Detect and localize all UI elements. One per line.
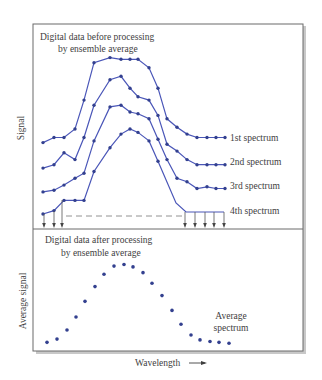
average-data-point (198, 338, 202, 342)
data-point (62, 151, 65, 154)
data-point (41, 141, 44, 144)
spectrum-label-2: 2nd spectrum (230, 157, 282, 167)
top-title-line2: by ensemble average (58, 44, 138, 54)
data-point (119, 104, 122, 107)
data-point (205, 163, 208, 166)
data-point (52, 136, 55, 139)
data-point (62, 136, 65, 139)
data-point (92, 170, 95, 173)
average-data-point (65, 328, 69, 332)
data-point (185, 180, 188, 183)
x-axis-label: Wavelength (135, 358, 180, 368)
data-point (119, 58, 122, 61)
data-point (223, 136, 226, 139)
data-point (205, 136, 208, 139)
data-point (156, 114, 159, 117)
top-title-line1: Digital data before processing (40, 32, 154, 42)
data-point (41, 190, 44, 193)
arrow-right-icon (189, 361, 207, 365)
data-point (82, 98, 85, 101)
data-point (128, 127, 131, 130)
average-spectrum-label-line2: spectrum (214, 323, 249, 333)
data-point (119, 75, 122, 78)
data-point (185, 132, 188, 135)
data-point (128, 58, 131, 61)
average-data-point (83, 300, 87, 304)
data-point (82, 172, 85, 175)
data-point (128, 110, 131, 113)
data-point (108, 146, 111, 149)
data-point (52, 163, 55, 166)
bottom-title-line2: by ensemble average (61, 248, 141, 258)
ensemble-average-diagram: Digital data before processing by ensemb… (0, 0, 322, 380)
average-data-point (170, 309, 174, 313)
data-point (73, 177, 76, 180)
data-point (147, 98, 150, 101)
average-spectrum-label-line1: Average (215, 311, 246, 321)
average-data-point (122, 263, 126, 267)
data-point (214, 136, 217, 139)
data-point (92, 139, 95, 142)
data-point (73, 127, 76, 130)
data-point (165, 143, 168, 146)
data-point (205, 185, 208, 188)
data-point (156, 87, 159, 90)
data-point (136, 95, 139, 98)
average-data-point (74, 315, 78, 319)
average-data-point (131, 265, 135, 269)
data-point (175, 149, 178, 152)
bottom-title-line1: Digital data after processing (45, 235, 153, 245)
average-data-point (112, 264, 116, 268)
average-data-point (227, 341, 231, 345)
data-point (92, 104, 95, 107)
data-point (185, 158, 188, 161)
average-data-point (217, 341, 221, 345)
data-point (108, 56, 111, 59)
data-point (82, 199, 85, 202)
data-point (175, 177, 178, 180)
data-point (62, 199, 65, 202)
data-point (119, 132, 122, 135)
data-point (52, 189, 55, 192)
data-point (195, 136, 198, 139)
data-point (223, 163, 226, 166)
data-point (108, 78, 111, 81)
data-point (136, 58, 139, 61)
top-y-axis-label: Signal (16, 116, 26, 141)
data-point (223, 187, 226, 190)
data-point (41, 166, 44, 169)
data-point (73, 158, 76, 161)
average-data-point (141, 271, 145, 275)
data-point (136, 131, 139, 134)
data-point (62, 183, 65, 186)
data-point (92, 61, 95, 64)
data-point (147, 66, 150, 69)
bottom-y-axis-label: Average signal (18, 272, 28, 329)
spectrum-label-1: 1st spectrum (230, 133, 279, 143)
data-point (214, 163, 217, 166)
average-data-point (93, 285, 97, 289)
data-point (156, 138, 159, 141)
data-point (195, 163, 198, 166)
average-data-point (45, 341, 49, 345)
spectrum-label-3: 3rd spectrum (230, 181, 280, 191)
average-data-point (55, 337, 59, 341)
data-point (165, 117, 168, 120)
average-data-point (179, 323, 183, 327)
data-point (214, 187, 217, 190)
data-point (108, 105, 111, 108)
data-point (136, 112, 139, 115)
average-data-point (189, 333, 193, 337)
data-point (82, 136, 85, 139)
spectrum-label-4: 4th spectrum (230, 206, 280, 216)
data-point (156, 160, 159, 163)
data-point (147, 117, 150, 120)
average-data-point (208, 340, 212, 344)
average-data-point (150, 282, 154, 286)
data-point (147, 139, 150, 142)
average-data-point (102, 273, 106, 277)
data-point (195, 187, 198, 190)
data-point (73, 199, 76, 202)
data-point (175, 126, 178, 129)
data-point (165, 158, 168, 161)
